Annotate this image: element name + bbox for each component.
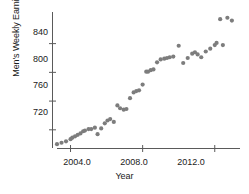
data-point [99,126,103,130]
data-point [214,41,218,45]
data-point [93,126,97,130]
data-point [108,117,112,121]
data-point [89,127,93,131]
data-point [208,47,212,51]
data-point [55,142,59,146]
data-point [151,67,155,71]
data-point [118,106,122,110]
data-point [112,120,116,124]
data-point [137,88,141,92]
data-point [155,60,159,64]
data-point [230,19,234,23]
data-point [168,55,172,59]
data-point [181,61,185,65]
data-point [83,128,87,132]
data-point [177,44,181,48]
data-point [95,132,99,136]
data-point [218,17,222,21]
data-point [64,139,68,143]
data-point [199,55,203,59]
plot-area [0,0,249,194]
data-point [204,49,208,53]
data-point [171,54,175,58]
data-point [128,96,132,100]
data-point [124,107,128,111]
data-point [225,16,229,20]
data-points [55,16,234,147]
data-point [59,141,63,145]
data-point [186,56,190,60]
data-point [221,43,225,47]
data-point [196,52,200,56]
data-point [141,82,145,86]
scatter-chart: Men's Weekly Earnings 840 800 760 720 20… [0,0,249,194]
data-point [159,57,163,61]
